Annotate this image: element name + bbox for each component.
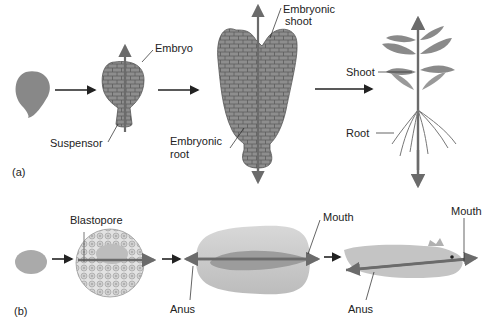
zygote: [16, 71, 50, 118]
label-root: Root: [346, 127, 369, 139]
label-anus-2: Anus: [348, 303, 373, 315]
label-mouth-1: Mouth: [323, 211, 354, 223]
heart-embryo: [218, 6, 297, 182]
egg: [15, 250, 47, 274]
panel-tag-a: (a): [12, 166, 25, 178]
label-suspensor: Suspensor: [50, 137, 103, 149]
gastrula: [76, 229, 154, 297]
label-embryonic-shoot-line1: Embryonic: [283, 3, 335, 15]
early-embryo: [102, 46, 153, 142]
panel-tag-b: (b): [14, 305, 27, 317]
label-anus-1: Anus: [170, 303, 195, 315]
label-shoot: Shoot: [346, 66, 375, 78]
label-embryonic-root-line2: root: [170, 148, 189, 160]
label-embryonic-root-line1: Embryonic: [170, 135, 222, 147]
label-embryonic-shoot-line2: shoot: [285, 15, 312, 27]
seedling: [376, 18, 456, 186]
label-blastopore: Blastopore: [70, 214, 123, 226]
label-mouth-2: Mouth: [451, 205, 482, 217]
elongating-embryo: [186, 220, 320, 300]
larva: [344, 218, 476, 300]
development-diagram: [0, 0, 490, 335]
label-embryo: Embryo: [155, 42, 193, 54]
